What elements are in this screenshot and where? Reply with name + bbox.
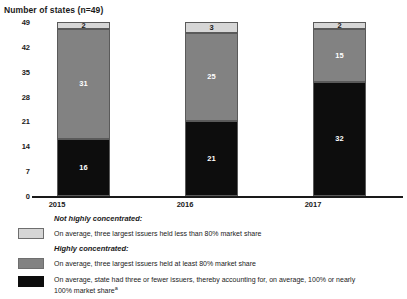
- bar-2016-label-light: 3: [209, 24, 213, 32]
- y-tick-42: 42: [2, 42, 30, 51]
- y-tick-7: 7: [2, 167, 30, 176]
- y-axis-title: Number of states (n=49): [4, 5, 103, 15]
- stacked-bar-chart: Number of states (n=49) 49 42 35 28 21 1…: [0, 0, 407, 299]
- bar-2015-segment-light[interactable]: 2: [57, 22, 110, 29]
- bar-2017-segment-light[interactable]: 2: [313, 22, 366, 29]
- bar-2015-label-mid: 31: [79, 80, 87, 88]
- legend-footnote-marker: a: [115, 285, 118, 291]
- bar-2016-segment-mid[interactable]: 25: [185, 33, 238, 122]
- legend-item-dark: On average, state had three or fewer iss…: [54, 275, 399, 295]
- y-tick-21: 21: [2, 117, 30, 126]
- x-tick-2016: 2016: [150, 200, 220, 209]
- legend-item-dark-line2: 100% market share: [54, 287, 115, 294]
- bar-2015-segment-dark[interactable]: 16: [57, 139, 110, 196]
- legend-swatch-light[interactable]: [18, 228, 44, 239]
- plot-area: 2 31 16 3 25 21 2 15: [32, 22, 403, 196]
- bar-2015-segment-mid[interactable]: 31: [57, 29, 110, 139]
- bar-2017[interactable]: 2 15 32: [313, 22, 366, 196]
- bar-2016-label-mid: 25: [207, 73, 215, 81]
- legend-item-light: On average, three largest issuers held l…: [54, 229, 399, 238]
- bar-2015-label-dark: 16: [79, 164, 87, 172]
- legend-group-not-highly-concentrated: Not highly concentrated:: [54, 214, 142, 223]
- y-tick-28: 28: [2, 92, 30, 101]
- legend-swatch-mid[interactable]: [18, 258, 44, 269]
- y-tick-35: 35: [2, 67, 30, 76]
- x-axis-line: [32, 196, 403, 198]
- bar-2017-label-dark: 32: [335, 135, 343, 143]
- bar-2015[interactable]: 2 31 16: [57, 22, 110, 196]
- bar-2016-label-dark: 21: [207, 155, 215, 163]
- legend-group-highly-concentrated: Highly concentrated:: [54, 244, 129, 253]
- x-tick-2015: 2015: [22, 200, 92, 209]
- bar-2017-segment-dark[interactable]: 32: [313, 82, 366, 196]
- y-tick-14: 14: [2, 142, 30, 151]
- bar-2016-segment-light[interactable]: 3: [185, 22, 238, 33]
- y-tick-49: 49: [2, 18, 30, 27]
- legend-swatch-dark[interactable]: [18, 276, 44, 287]
- legend-item-mid: On average, three largest issuers held a…: [54, 259, 399, 268]
- y-axis-tick-labels: 49 42 35 28 21 14 7 0: [0, 22, 30, 196]
- bar-2017-segment-mid[interactable]: 15: [313, 29, 366, 82]
- bar-2017-label-mid: 15: [335, 52, 343, 60]
- bar-2016-segment-dark[interactable]: 21: [185, 121, 238, 196]
- bar-2016[interactable]: 3 25 21: [185, 22, 238, 196]
- legend-item-dark-line1: On average, state had three or fewer iss…: [54, 276, 355, 283]
- x-tick-2017: 2017: [278, 200, 348, 209]
